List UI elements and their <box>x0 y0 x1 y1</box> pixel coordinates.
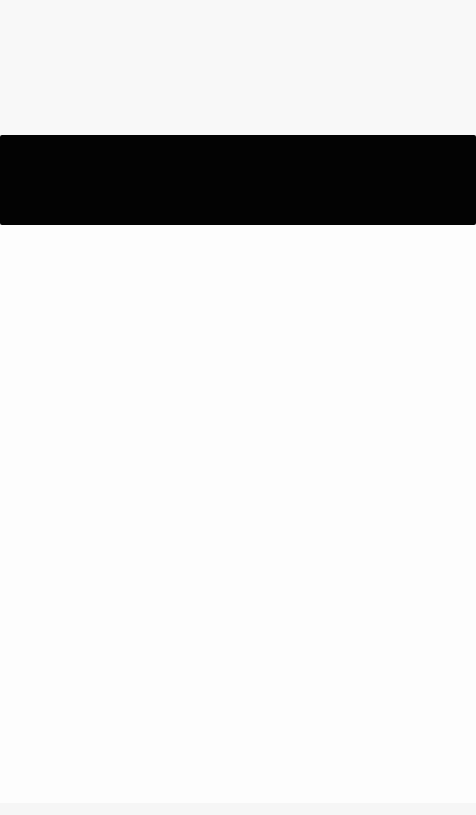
black-banner <box>0 135 476 225</box>
header-area <box>0 0 476 135</box>
content-area <box>0 225 476 815</box>
bottom-edge <box>0 803 476 815</box>
blank-page <box>0 0 476 815</box>
